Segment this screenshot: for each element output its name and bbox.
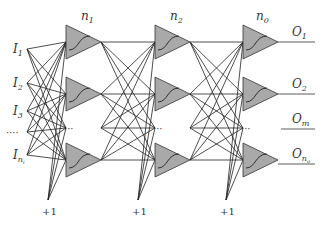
neuron: [243, 25, 278, 59]
bias-label: +1: [42, 206, 57, 217]
layer-label: n1: [81, 9, 94, 25]
neuron: [66, 25, 101, 59]
neuron: [66, 77, 101, 111]
neuron: [66, 143, 101, 177]
connections: [27, 42, 315, 200]
input-label: Ini: [12, 148, 25, 165]
output-label: O2: [292, 77, 307, 93]
neuron: [155, 25, 190, 59]
hidden-ellipsis: ···: [153, 123, 163, 134]
bias-label: +1: [220, 206, 235, 217]
bias-label: +1: [132, 206, 147, 217]
input-label: I3: [12, 104, 23, 120]
hidden-ellipsis: ···: [64, 123, 74, 134]
neuron: [155, 143, 190, 177]
neuron: [243, 77, 278, 111]
neuron: [155, 77, 190, 111]
output-label: Ono: [292, 147, 310, 164]
input-ellipsis: ····: [6, 127, 19, 138]
neuron: [243, 143, 278, 177]
neurons: [66, 25, 278, 177]
layer-label: n2: [170, 9, 183, 25]
input-label: I2: [12, 76, 23, 92]
output-label: Om: [292, 112, 310, 128]
layer-label: n0: [256, 9, 269, 25]
neural-network-diagram: ·············I1I2I3Inin1n2n0O1O2OmOno+1+…: [0, 0, 329, 229]
output-label: O1: [292, 25, 307, 41]
input-label: I1: [12, 42, 23, 58]
hidden-ellipsis: ···: [241, 123, 251, 134]
